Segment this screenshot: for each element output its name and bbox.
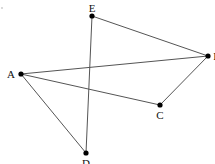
point-e [89,13,94,18]
segment-cb [160,56,208,105]
segment-eb [92,16,208,56]
segment-ab [21,56,208,74]
points-group [18,13,210,155]
segments-group [21,16,208,153]
point-a [18,71,23,76]
point-label-c: C [156,109,163,121]
segment-ac [21,74,160,105]
stray-mark [1,7,2,8]
point-d [83,150,88,155]
point-label-b: B [213,50,215,62]
labels-group: ABCDE [7,2,215,164]
point-label-d: D [82,157,90,164]
point-c [157,102,162,107]
point-b [205,53,210,58]
segment-ed [86,16,92,153]
point-label-a: A [7,68,15,80]
point-label-e: E [89,2,96,14]
geometry-diagram: ABCDE [0,0,215,164]
diagram-canvas: ABCDE [0,0,215,164]
